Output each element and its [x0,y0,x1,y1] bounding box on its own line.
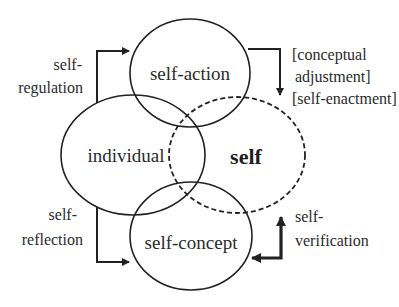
self-regulation-label-line2: regulation [18,79,83,97]
conceptual-adjustment-arrow-icon [248,49,280,95]
edge-conceptual-adjustment: [conceptual adjustment] [self-enactment] [248,46,397,107]
self-enactment-label: [self-enactment] [292,90,397,107]
node-self: self [169,97,305,213]
self-label: self [230,144,262,169]
self-action-label: self-action [150,63,231,84]
individual-label: individual [87,145,164,166]
conceptual-adjustment-label-line2: adjustment] [295,68,371,86]
node-individual: individual [61,95,205,215]
conceptual-adjustment-label-line1: [conceptual [292,46,367,64]
self-reflection-label-line1: self- [49,206,77,223]
self-verification-label-line2: verification [295,232,369,249]
self-model-diagram: self-action individual self self-concept… [0,0,399,307]
self-verification-label-line1: self- [295,208,323,225]
node-self-action: self-action [130,19,250,127]
self-regulation-label-line1: self- [54,56,82,73]
self-reflection-label-line2: reflection [22,231,83,248]
self-verification-arrow-icon [252,217,281,258]
edge-self-reflection: self- reflection [22,206,129,262]
edge-self-regulation: self- regulation [18,51,129,103]
self-concept-label: self-concept [145,232,239,253]
edge-self-verification: self- verification [252,208,369,258]
